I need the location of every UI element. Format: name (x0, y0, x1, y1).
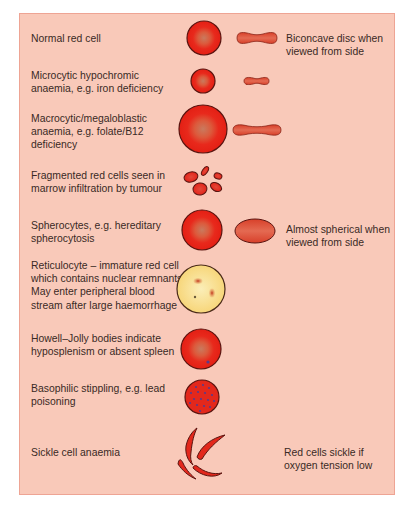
normal-cell-icon (187, 21, 221, 55)
spherocyte-side-view-icon (235, 219, 275, 243)
cell-illustrations (0, 0, 415, 517)
microcytic-side-view-icon (244, 77, 269, 84)
sickle-cells-icon (178, 428, 225, 479)
macrocytic-side-view-icon (233, 125, 281, 135)
normal-side-view-icon (237, 33, 277, 44)
spherocyte-cell-icon (182, 210, 222, 250)
reticulocyte-cell-icon (177, 265, 225, 313)
basophilic-stippling-cell-icon (185, 380, 219, 414)
macrocytic-cell-icon (179, 105, 227, 153)
microcytic-cell-icon (191, 69, 215, 93)
fragmented-cells-icon (183, 165, 223, 196)
howell-jolly-cell-icon (181, 329, 221, 369)
